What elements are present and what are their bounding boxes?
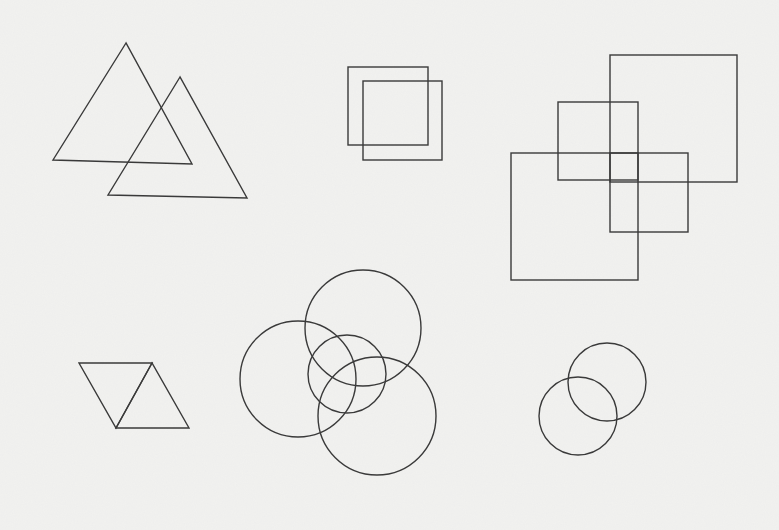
shapes-canvas	[0, 0, 779, 530]
paper-background	[0, 0, 779, 530]
